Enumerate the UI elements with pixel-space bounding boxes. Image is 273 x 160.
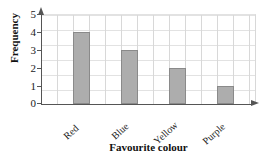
- y-axis-line: [41, 14, 42, 104]
- y-tick-label-3: 3: [24, 45, 36, 56]
- y-tick-label-4: 4: [24, 27, 36, 38]
- x-tick-label-blue: Blue: [110, 121, 131, 141]
- y-tick-label-group: 5 4 3 2 1 0: [20, 0, 36, 160]
- x-axis-arrow-icon: [251, 100, 259, 106]
- bar-blue: [121, 50, 138, 104]
- x-tick-label-red: Red: [62, 123, 81, 141]
- bar-red: [73, 32, 90, 104]
- y-tick-1: [37, 86, 42, 87]
- bar-yellow: [169, 68, 186, 104]
- y-tick-3: [37, 50, 42, 51]
- y-tick-label-5: 5: [24, 9, 36, 20]
- y-tick-label-2: 2: [24, 63, 36, 74]
- y-tick-label-1: 1: [24, 81, 36, 92]
- x-axis-title: Favourite colour: [41, 141, 256, 153]
- y-axis-title: Frequency: [8, 3, 20, 73]
- y-tick-2: [37, 68, 42, 69]
- bar-purple: [217, 86, 234, 104]
- bar-chart-figure: 5 4 3 2 1 0 Red Blue Yellow Purple Frequ…: [0, 0, 273, 160]
- y-tick-0: [37, 103, 42, 104]
- y-tick-4: [37, 32, 42, 33]
- y-tick-label-0: 0: [24, 98, 36, 109]
- y-tick-5: [37, 14, 42, 15]
